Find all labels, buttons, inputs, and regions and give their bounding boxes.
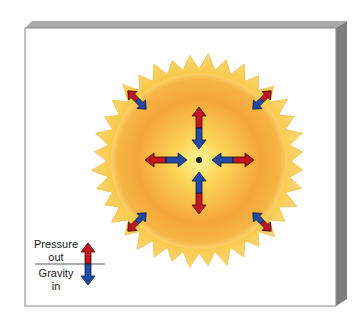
legend-gravity-label: Gravity in: [33, 267, 79, 293]
legend-gravity-line1: Gravity: [33, 267, 79, 280]
core-point-icon: [196, 157, 202, 163]
legend-pressure-label: Pressure out: [33, 238, 79, 264]
panel-top-bevel: [25, 21, 347, 28]
legend-gravity-line2: in: [33, 280, 79, 293]
legend-pressure-line1: Pressure: [33, 238, 79, 251]
panel-right-bevel: [336, 21, 347, 306]
legend-pressure-line2: out: [33, 251, 79, 264]
